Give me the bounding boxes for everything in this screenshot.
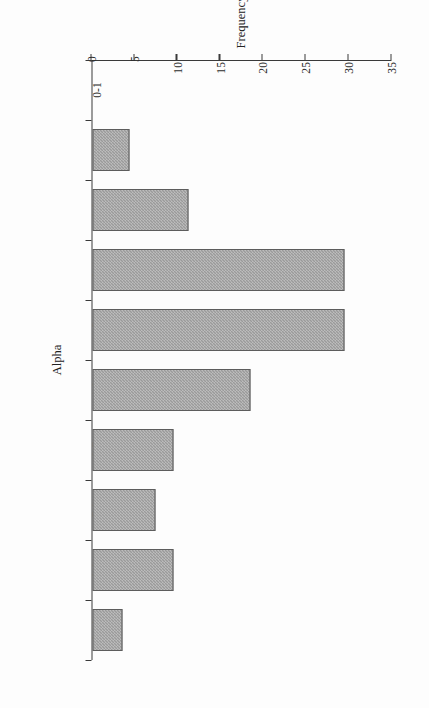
bar (92, 129, 129, 171)
frequency-tick (218, 54, 219, 60)
alpha-tick (85, 660, 91, 661)
bar (92, 549, 173, 591)
alpha-tick (85, 240, 91, 241)
alpha-axis-title: Alpha (50, 345, 65, 376)
bar (92, 489, 155, 531)
alpha-tick-label: 0-1 (90, 82, 102, 97)
frequency-tick (304, 54, 305, 60)
alpha-tick (85, 480, 91, 481)
bar (92, 249, 343, 291)
alpha-tick (85, 180, 91, 181)
bar (92, 429, 173, 471)
bar (92, 609, 121, 651)
bar (92, 369, 250, 411)
frequency-tick-label: 20 (256, 62, 268, 74)
frequency-tick-label: 5 (128, 56, 140, 62)
alpha-tick (85, 360, 91, 361)
frequency-axis-title: Frequency (234, 0, 249, 48)
frequency-tick (347, 54, 348, 60)
alpha-tick (85, 300, 91, 301)
figure-canvas: 05101520253035 0-11-22-33-44-54-66-77-88… (0, 0, 429, 708)
plot-area: 05101520253035 0-11-22-33-44-54-66-77-88… (91, 60, 391, 660)
frequency-tick-label: 35 (385, 62, 397, 74)
bar (92, 309, 343, 351)
frequency-tick (261, 54, 262, 60)
frequency-tick-label: 25 (299, 62, 311, 74)
alpha-tick (85, 420, 91, 421)
frequency-tick-label: 15 (214, 62, 226, 74)
frequency-tick-label: 10 (171, 62, 183, 74)
alpha-tick (85, 540, 91, 541)
frequency-tick (175, 54, 176, 60)
alpha-tick (85, 120, 91, 121)
rotated-chart-stage: 05101520253035 0-11-22-33-44-54-66-77-88… (0, 0, 429, 708)
frequency-tick (390, 54, 391, 60)
alpha-tick (85, 60, 91, 61)
alpha-tick (85, 600, 91, 601)
bar (92, 189, 188, 231)
frequency-tick-label: 30 (342, 62, 354, 74)
